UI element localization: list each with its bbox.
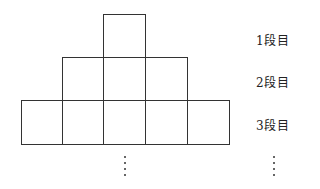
tile-row3-4: [145, 100, 188, 145]
tile-row3-2: [62, 100, 104, 145]
tile-row2-2: [103, 57, 146, 101]
tile-row3-1: [21, 100, 63, 145]
tile-row2-3: [145, 57, 188, 101]
tile-row1-1: [103, 14, 146, 58]
tile-row2-1: [62, 57, 104, 101]
continuation-dots-labels: [273, 156, 276, 180]
row-label-1: 1段目: [256, 31, 289, 48]
continuation-dots-diagram: [124, 156, 127, 180]
tile-row3-3: [103, 100, 146, 145]
tile-row3-5: [187, 100, 230, 145]
row-label-3: 3段目: [256, 116, 289, 133]
row-label-2: 2段目: [256, 73, 289, 90]
